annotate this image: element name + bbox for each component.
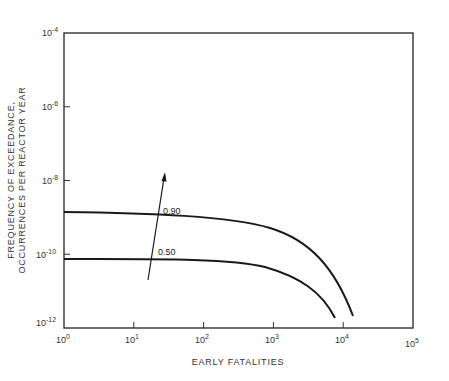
svg-text:10-10: 10-10 [36, 248, 56, 260]
svg-text:100: 100 [56, 333, 70, 345]
x-axis-title: EARLY FATALITIES [192, 357, 285, 367]
y-axis-ticks [64, 107, 70, 255]
svg-text:10-6: 10-6 [42, 100, 58, 112]
chart: 100 101 102 103 104 105 10-4 10-6 10-8 1… [0, 0, 449, 381]
svg-text:10-8: 10-8 [42, 174, 58, 186]
x-tick-labels: 100 101 102 103 104 105 [56, 333, 419, 349]
curve-label-0-90: 0.90 [163, 206, 181, 216]
svg-text:10-4: 10-4 [42, 26, 58, 38]
x-tick-0-base: 10 [56, 335, 66, 345]
svg-text:101: 101 [125, 333, 139, 345]
svg-text:104: 104 [335, 333, 349, 345]
y-axis-title-line1: FREQUENCY OF EXCEEDANCE, [6, 101, 16, 259]
svg-text:102: 102 [195, 333, 209, 345]
svg-text:103: 103 [265, 333, 279, 345]
y-tick-labels: 10-4 10-6 10-8 10-10 10-12 [36, 26, 58, 328]
curve-0-50 [64, 259, 335, 318]
x-axis-ticks [134, 322, 343, 328]
arrowhead-icon [162, 172, 167, 182]
curve-label-0-50: 0.50 [158, 247, 176, 257]
confidence-arrow [148, 172, 167, 280]
svg-text:105: 105 [405, 337, 419, 349]
curve-0-90 [64, 212, 353, 316]
y-axis-title-line2: OCCURRENCES PER REACTOR YEAR [17, 86, 27, 273]
svg-text:10-12: 10-12 [36, 316, 56, 328]
plot-frame [64, 33, 413, 328]
